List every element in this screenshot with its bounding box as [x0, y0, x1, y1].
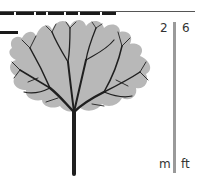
- scale-metric-value: 2: [160, 22, 168, 34]
- scale-imperial-value: 6: [182, 22, 190, 34]
- tree-canopy: [9, 20, 150, 112]
- scale-imperial-unit: ft: [181, 158, 190, 170]
- tree-illustration: [0, 0, 160, 183]
- scale-metric-unit: m: [159, 158, 171, 170]
- scale-bar: [173, 22, 176, 173]
